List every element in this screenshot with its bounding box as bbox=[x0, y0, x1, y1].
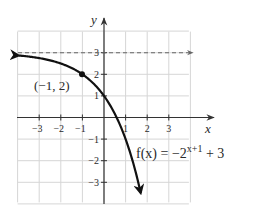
y-tick-label: 1 bbox=[94, 90, 99, 101]
y-tick-label: −3 bbox=[88, 177, 99, 188]
x-tick-label: −1 bbox=[75, 123, 86, 134]
y-axis-label: y bbox=[89, 12, 97, 27]
x-tick-label: −2 bbox=[53, 123, 64, 134]
y-tick-label: 2 bbox=[94, 69, 99, 80]
x-tick-label: −3 bbox=[32, 123, 43, 134]
y-tick-label: −2 bbox=[88, 155, 99, 166]
function-label-exponent: x+1 bbox=[187, 143, 203, 154]
function-label-prefix: f(x) = −2 bbox=[136, 146, 187, 162]
function-label: f(x) = −2x+1 + 3 bbox=[136, 143, 224, 162]
x-tick-label: 2 bbox=[145, 123, 150, 134]
point-marker bbox=[79, 71, 85, 77]
function-label-suffix: + 3 bbox=[202, 146, 224, 161]
y-tick-label: −1 bbox=[88, 134, 99, 145]
function-graph: −3−2−1123321−1−2−3 y x (−1, 2) f(x) = −2… bbox=[0, 0, 261, 214]
x-axis-label: x bbox=[204, 121, 211, 136]
point-label: (−1, 2) bbox=[34, 78, 70, 93]
x-tick-label: 3 bbox=[166, 123, 171, 134]
